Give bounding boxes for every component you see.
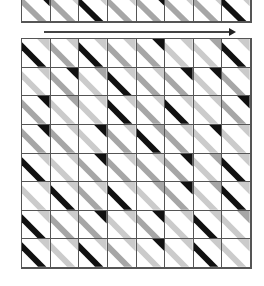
grid-tile	[165, 182, 194, 211]
grid-tile	[51, 154, 80, 183]
grid-tile	[108, 154, 137, 183]
grid-tile	[165, 68, 194, 97]
grid-tile	[165, 96, 194, 125]
strip-tile	[137, 0, 166, 22]
grid-tile	[79, 182, 108, 211]
strip-tile	[108, 0, 137, 22]
strip-tile	[222, 0, 251, 22]
grid-tile	[22, 39, 51, 68]
grid-tile	[51, 239, 80, 268]
grid-tile	[194, 125, 223, 154]
grid-tile	[137, 182, 166, 211]
grid-tile	[51, 211, 80, 240]
grid-tile	[108, 182, 137, 211]
grid-tile	[222, 182, 251, 211]
grid-tile	[51, 39, 80, 68]
direction-arrow-icon	[44, 31, 230, 33]
grid-tile	[194, 211, 223, 240]
grid-tile	[108, 68, 137, 97]
grid-tile	[51, 182, 80, 211]
grid-tile	[165, 154, 194, 183]
grid-tile	[108, 125, 137, 154]
grid-tile	[222, 96, 251, 125]
grid-tile	[22, 154, 51, 183]
grid-tile	[22, 96, 51, 125]
grid-tile	[137, 96, 166, 125]
grid-tile	[165, 239, 194, 268]
grid-tile	[22, 211, 51, 240]
grid-tile	[51, 68, 80, 97]
strip-tile	[165, 0, 194, 22]
grid-tile	[108, 211, 137, 240]
grid-tile	[137, 239, 166, 268]
grid-tile	[137, 211, 166, 240]
grid-tile	[79, 68, 108, 97]
grid-tile	[79, 239, 108, 268]
grid-tile	[51, 125, 80, 154]
grid-tile	[165, 39, 194, 68]
grid-tile	[194, 68, 223, 97]
grid-tile	[22, 239, 51, 268]
strip-tile	[22, 0, 51, 22]
grid-tile	[22, 68, 51, 97]
grid-tile	[165, 125, 194, 154]
grid-tile	[194, 182, 223, 211]
strip-tile	[51, 0, 80, 22]
top-partial-tile-strip	[21, 0, 252, 23]
grid-tile	[137, 68, 166, 97]
grid-tile	[165, 211, 194, 240]
grid-tile	[222, 68, 251, 97]
grid-tile	[108, 239, 137, 268]
tile-pattern-grid	[21, 38, 252, 269]
strip-tile	[194, 0, 223, 22]
grid-tile	[222, 125, 251, 154]
grid-tile	[222, 154, 251, 183]
grid-tile	[22, 125, 51, 154]
grid-tile	[137, 39, 166, 68]
grid-tile	[108, 96, 137, 125]
grid-tile	[79, 154, 108, 183]
grid-tile	[137, 154, 166, 183]
grid-tile	[222, 239, 251, 268]
grid-tile	[194, 154, 223, 183]
grid-tile	[79, 96, 108, 125]
grid-tile	[137, 125, 166, 154]
grid-tile	[194, 239, 223, 268]
grid-tile	[108, 39, 137, 68]
grid-tile	[79, 39, 108, 68]
grid-tile	[222, 39, 251, 68]
grid-tile	[194, 39, 223, 68]
grid-tile	[51, 96, 80, 125]
grid-tile	[79, 211, 108, 240]
grid-tile	[222, 211, 251, 240]
grid-tile	[79, 125, 108, 154]
grid-tile	[194, 96, 223, 125]
grid-tile	[22, 182, 51, 211]
strip-tile	[79, 0, 108, 22]
